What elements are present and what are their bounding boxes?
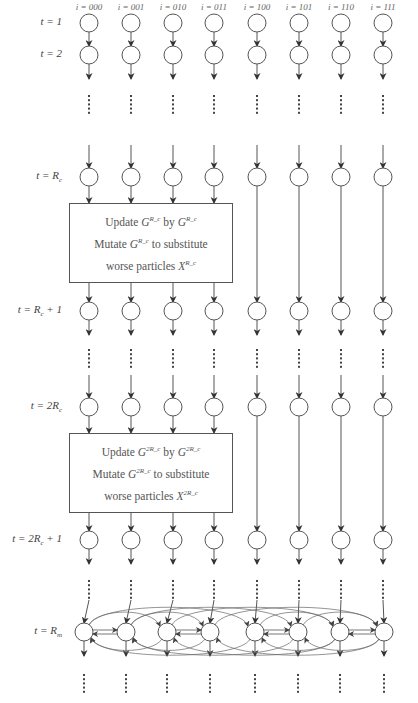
ellipsis-dot — [130, 584, 132, 586]
box-line-mutate: Mutate G2R_c to substitute — [93, 462, 210, 484]
ellipsis-dot — [172, 597, 174, 599]
ellipsis-dot — [298, 99, 300, 101]
ellipsis-dot — [340, 349, 342, 351]
ellipsis-dot — [172, 112, 174, 114]
column-label: i = 110 — [328, 2, 354, 12]
particle-node — [122, 46, 140, 64]
particle-node — [374, 168, 392, 186]
column-label: i = 101 — [286, 2, 313, 12]
ellipsis-dot — [256, 103, 258, 105]
ellipsis-dot — [383, 691, 385, 693]
ellipsis-dot — [382, 580, 384, 582]
ellipsis-dot — [130, 99, 132, 101]
ellipsis-dot — [88, 108, 90, 110]
flow-arrow — [167, 600, 173, 623]
particle-node — [289, 623, 307, 641]
particle-node — [248, 398, 266, 416]
superscript: 2R_c — [183, 489, 197, 497]
ellipsis-dot — [172, 584, 174, 586]
particle-node — [290, 168, 308, 186]
gbest-symbol: G — [178, 216, 186, 228]
ellipsis-dot — [298, 584, 300, 586]
particle-node — [290, 302, 308, 320]
column-label: i = 011 — [201, 2, 227, 12]
ellipsis-dot — [172, 103, 174, 105]
ellipsis-dot — [213, 108, 215, 110]
node-layer — [75, 14, 393, 641]
text: Update — [102, 446, 138, 458]
ellipsis-dot — [88, 366, 90, 368]
ellipsis-dot — [172, 353, 174, 355]
ellipsis-dot — [209, 678, 211, 680]
row-label: t = 2Rc + 1 — [12, 532, 62, 547]
ellipsis-dot — [130, 593, 132, 595]
ellipsis-dot — [83, 678, 85, 680]
particle-node — [248, 531, 266, 549]
ellipsis-dot — [88, 362, 90, 364]
ellipsis-dot — [125, 682, 127, 684]
ellipsis-dot — [130, 597, 132, 599]
ellipsis-dot — [166, 687, 168, 689]
ellipsis-dot — [340, 362, 342, 364]
gbest-symbol: G — [178, 446, 186, 458]
ellipsis-dot — [172, 593, 174, 595]
ellipsis-dot — [88, 103, 90, 105]
ellipsis-dot — [130, 588, 132, 590]
ellipsis-dot — [340, 366, 342, 368]
flow-arrow — [255, 600, 257, 623]
text: Mutate — [93, 468, 128, 480]
particle-node — [75, 623, 93, 641]
ellipsis-dot — [382, 366, 384, 368]
superscript: R_c — [186, 215, 197, 223]
ellipsis-dot — [298, 353, 300, 355]
ellipsis-dot — [254, 674, 256, 676]
ellipsis-dot — [382, 99, 384, 101]
ellipsis-dot — [340, 95, 342, 97]
row-label: t = 2 — [41, 47, 62, 59]
ellipsis-dot — [213, 349, 215, 351]
ellipsis-dot — [340, 353, 342, 355]
ellipsis-dot — [382, 112, 384, 114]
flow-arrow — [210, 600, 214, 623]
column-label: i = 010 — [160, 2, 187, 12]
flow-arrow — [126, 600, 131, 623]
particle-swarm-flow-diagram — [0, 0, 418, 703]
ellipsis-dot — [172, 362, 174, 364]
column-label: i = 000 — [76, 2, 103, 12]
superscript: R_c — [185, 259, 196, 267]
ellipsis-dot — [213, 593, 215, 595]
ellipsis-dot — [172, 357, 174, 359]
gbest-symbol: G — [138, 446, 146, 458]
ellipsis-dot — [340, 112, 342, 114]
ellipsis-dot — [340, 357, 342, 359]
text: by — [160, 446, 177, 458]
text: by — [160, 216, 177, 228]
ellipsis-dot — [88, 597, 90, 599]
ellipsis-dot — [382, 108, 384, 110]
particle-node — [332, 302, 350, 320]
particle-node — [374, 302, 392, 320]
particle-node — [164, 398, 182, 416]
ellipsis-dot — [254, 678, 256, 680]
ellipsis-dot — [88, 95, 90, 97]
particle-node — [205, 398, 223, 416]
ellipsis-dot — [125, 691, 127, 693]
particle-node — [122, 168, 140, 186]
ellipsis-dot — [166, 674, 168, 676]
ellipsis-dot — [213, 353, 215, 355]
particle-node — [290, 46, 308, 64]
ellipsis-dot — [209, 691, 211, 693]
ellipsis-dot — [298, 593, 300, 595]
text: Mutate — [94, 238, 129, 250]
ellipsis-dot — [88, 593, 90, 595]
ellipsis-dot — [83, 687, 85, 689]
column-label: i = 111 — [370, 2, 395, 12]
ellipsis-dot — [340, 103, 342, 105]
ellipsis-dot — [213, 588, 215, 590]
ellipsis-dot — [130, 362, 132, 364]
ellipsis-dot — [166, 682, 168, 684]
ellipsis-dot — [256, 108, 258, 110]
ellipsis-dot — [340, 584, 342, 586]
ellipsis-dot — [209, 687, 211, 689]
particle-node — [164, 531, 182, 549]
